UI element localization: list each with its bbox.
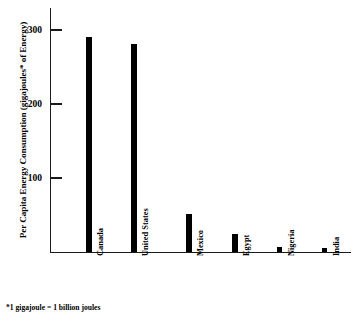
x-axis-label-united-states: United States xyxy=(139,186,153,256)
bar-egypt xyxy=(232,234,238,252)
x-axis-label-mexico: Mexico xyxy=(194,186,208,256)
plot-area: CanadaUnited StatesMexicoEgyptNigeriaInd… xyxy=(0,0,354,326)
x-axis-label-egypt: Egypt xyxy=(240,186,254,256)
bar-united-states xyxy=(131,44,137,252)
bar-canada xyxy=(86,37,92,252)
bar-india xyxy=(322,248,327,252)
bar-nigeria xyxy=(277,247,282,252)
x-axis-label-india: India xyxy=(330,186,344,256)
x-axis-label-canada: Canada xyxy=(94,186,108,256)
footnote: *1 gigajoule = 1 billion joules xyxy=(6,303,100,312)
bar-mexico xyxy=(186,214,192,252)
x-axis-label-nigeria: Nigeria xyxy=(285,186,299,256)
bar-chart: Per Capita Energy Consumption (gigajoule… xyxy=(0,0,354,326)
